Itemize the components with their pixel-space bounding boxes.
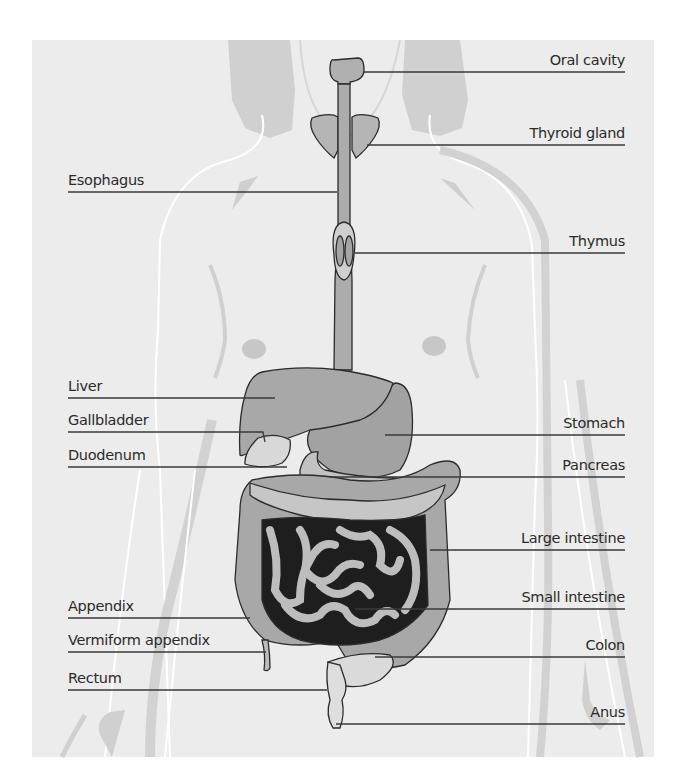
- label-colon: Colon: [585, 638, 625, 653]
- label-oral-cavity: Oral cavity: [550, 53, 625, 68]
- label-liver: Liver: [68, 379, 102, 394]
- label-appendix: Appendix: [68, 599, 134, 614]
- label-small-intestine: Small intestine: [521, 590, 625, 605]
- label-rectum: Rectum: [68, 671, 122, 686]
- label-vermiform-appendix: Vermiform appendix: [68, 633, 210, 648]
- label-large-intestine: Large intestine: [521, 531, 625, 546]
- thyroid-shape: [311, 115, 338, 158]
- thyroid-shape-right: [352, 115, 379, 158]
- oral-cavity-shape: [330, 58, 364, 84]
- label-esophagus: Esophagus: [68, 173, 144, 188]
- label-pancreas: Pancreas: [562, 458, 625, 473]
- label-duodenum: Duodenum: [68, 448, 145, 463]
- anatomy-illustration: [0, 0, 686, 782]
- label-thyroid-gland: Thyroid gland: [529, 126, 625, 141]
- label-stomach: Stomach: [563, 416, 625, 431]
- label-gallbladder: Gallbladder: [68, 413, 148, 428]
- vermiform-appendix-shape: [262, 640, 270, 671]
- label-anus: Anus: [590, 705, 625, 720]
- organs: [235, 58, 460, 728]
- label-thymus: Thymus: [569, 234, 625, 249]
- digestive-system-diagram: Esophagus Liver Gallbladder Duodenum App…: [0, 0, 686, 782]
